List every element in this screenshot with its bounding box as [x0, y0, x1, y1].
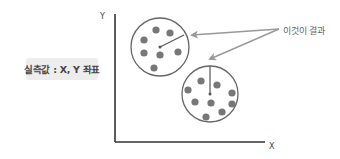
data-point: [140, 49, 147, 56]
data-point: [202, 113, 209, 120]
arrows: [192, 29, 279, 59]
cluster-diagram: [0, 0, 340, 159]
cluster-2: [182, 66, 238, 122]
data-point: [228, 89, 235, 96]
data-point: [150, 64, 157, 71]
data-point: [207, 99, 214, 106]
data-point: [184, 86, 191, 93]
data-point: [197, 77, 204, 84]
data-point: [213, 81, 220, 88]
axes: [115, 14, 265, 142]
cluster-1: [131, 18, 189, 76]
centroid-dot: [159, 46, 162, 49]
radius-line: [160, 35, 184, 47]
data-point: [166, 29, 173, 36]
data-point: [156, 51, 163, 58]
data-point: [191, 98, 198, 105]
data-point: [174, 48, 181, 55]
centroid-dot: [209, 93, 212, 96]
data-point: [152, 26, 159, 33]
data-point: [218, 108, 225, 115]
data-point: [140, 36, 147, 43]
data-point: [228, 100, 235, 107]
